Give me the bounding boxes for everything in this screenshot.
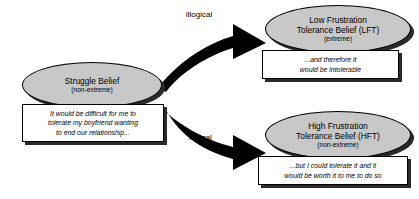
hft-title-line1: High Frustration: [308, 121, 368, 131]
lft-title-line2: Tolerance Belief (LFT): [297, 25, 379, 35]
lft-callout-line1: ...and therefore it: [304, 56, 356, 63]
hft-callout-text: ...but I could tolerate it and it would …: [280, 161, 385, 179]
arrow-logical-shape: [158, 104, 266, 170]
lft-title-line1: Low Frustration: [309, 15, 367, 25]
node-struggle-belief[interactable]: Struggle Belief (non-extreme): [22, 62, 162, 108]
hft-callout-line1: ...but I could tolerate it and it: [290, 162, 377, 169]
callout-hft[interactable]: ...but I could tolerate it and it would …: [258, 156, 408, 185]
lft-callout-line2: would be intolerable: [300, 66, 361, 73]
lft-subtitle: (extreme): [324, 35, 352, 43]
hft-callout-line2: would be worth it to me to do so: [284, 172, 381, 179]
arrow-logical-label: logical: [189, 133, 212, 142]
callout-struggle-belief[interactable]: It would be difficult for me to tolerate…: [22, 104, 164, 142]
lft-callout-text: ...and therefore it would be intolerable: [296, 55, 365, 73]
node-hft[interactable]: High Frustration Tolerance Belief (HFT) …: [265, 111, 411, 159]
callout-lft[interactable]: ...and therefore it would be intolerable: [262, 50, 399, 79]
struggle-belief-title: Struggle Belief: [65, 76, 119, 86]
hft-title-line2: Tolerance Belief (HFT): [296, 131, 380, 141]
hft-subtitle: (non-extreme): [317, 141, 358, 149]
diagram-canvas: illogical logical Struggle Belief (non-e…: [0, 0, 419, 199]
struggle-belief-subtitle: (non-extreme): [71, 86, 112, 94]
struggle-callout-text: It would be difficult for me to tolerate…: [44, 109, 142, 137]
node-lft[interactable]: Low Frustration Tolerance Belief (LFT) (…: [265, 5, 411, 53]
arrow-illogical-shape: [158, 24, 266, 92]
struggle-callout-line3: to end our relationship...: [56, 129, 130, 136]
struggle-callout-line1: It would be difficult for me to: [50, 110, 136, 117]
arrow-illogical-label: illogical: [186, 10, 212, 19]
struggle-callout-line2: tolerate my boyfriend wanting: [48, 119, 138, 126]
